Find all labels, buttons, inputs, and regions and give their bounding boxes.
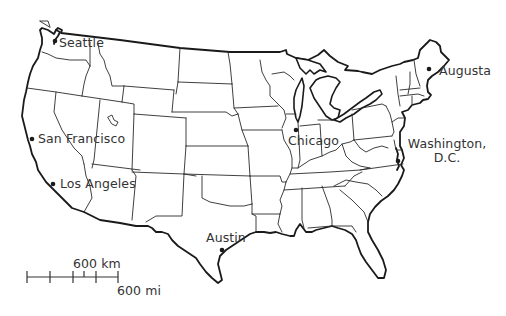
scale-label-mi: 600 mi [117,284,161,298]
great-salt-lake [108,115,118,126]
san-juan-island-shape [40,21,50,27]
city-label-los-angeles: Los Angeles [60,177,136,191]
city-label-austin: Austin [206,231,246,245]
city-dot-washington-dc [396,159,401,164]
city-label-washington-line1: Washington, [404,137,490,151]
lake-huron [310,76,340,120]
lake-erie-ontario [334,90,382,122]
city-label-chicago: Chicago [288,134,339,148]
scale-bar [27,271,118,283]
city-label-seattle: Seattle [59,36,104,50]
scale-label-km: 600 km [73,257,121,271]
city-label-augusta: Augusta [439,64,491,78]
city-dot-chicago [294,128,299,133]
city-label-washington-dc: Washington, D.C. [404,137,490,165]
city-dot-augusta [427,67,432,72]
us-map: Seattle San Francisco Los Angeles Chicag… [0,0,506,316]
city-dot-seattle [53,39,58,44]
city-dot-austin [220,248,225,253]
lake-michigan [294,78,304,122]
city-label-san-francisco: San Francisco [38,132,125,146]
city-label-washington-line2: D.C. [404,151,490,165]
city-dot-los-angeles [51,182,56,187]
city-dot-san-francisco [30,137,35,142]
lake-superior-shore [296,58,326,74]
